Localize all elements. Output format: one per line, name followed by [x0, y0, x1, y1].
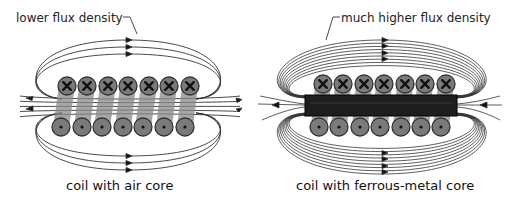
wire-into-page-icon — [396, 75, 414, 93]
wire-into-page-icon — [437, 75, 455, 93]
wire-into-page-icon — [334, 75, 352, 93]
wire-out-of-page-icon — [176, 118, 194, 136]
annotation-leader-line — [326, 17, 340, 40]
air-core-coil-panel: lower flux density coil with air core — [16, 11, 242, 193]
wire-out-of-page-icon — [114, 118, 132, 136]
wire-out-of-page-icon — [93, 118, 111, 136]
wire-into-page-icon — [58, 77, 76, 95]
annotation-much-higher-flux-density: much higher flux density — [341, 11, 491, 25]
annotation-leader-line — [123, 17, 137, 34]
ferrous-metal-core — [305, 95, 457, 116]
wire-out-of-page-icon — [412, 118, 430, 136]
wire-out-of-page-icon — [52, 118, 70, 136]
wire-out-of-page-icon — [392, 118, 410, 136]
wire-into-page-icon — [416, 75, 434, 93]
wire-into-page-icon — [314, 75, 332, 93]
wire-into-page-icon — [140, 77, 158, 95]
ferrous-core-coil-panel: much higher flux density coil with ferro… — [258, 11, 502, 193]
wire-out-of-page-icon — [310, 118, 328, 136]
wire-out-of-page-icon — [330, 118, 348, 136]
wire-into-page-icon — [119, 77, 137, 95]
wire-out-of-page-icon — [73, 118, 91, 136]
wire-into-page-icon — [99, 77, 117, 95]
wire-into-page-icon — [355, 75, 373, 93]
wire-into-page-icon — [375, 75, 393, 93]
wire-out-of-page-icon — [432, 118, 450, 136]
wire-out-of-page-icon — [134, 118, 152, 136]
electromagnet-diagram: lower flux density coil with air core mu… — [0, 0, 505, 200]
wire-out-of-page-icon — [351, 118, 369, 136]
wire-into-page-icon — [78, 77, 96, 95]
wire-out-of-page-icon — [371, 118, 389, 136]
caption-air-core: coil with air core — [66, 178, 173, 193]
wire-into-page-icon — [181, 77, 199, 95]
annotation-lower-flux-density: lower flux density — [16, 11, 123, 25]
coil-winding — [305, 75, 457, 136]
wire-into-page-icon — [160, 77, 178, 95]
wire-out-of-page-icon — [155, 118, 173, 136]
caption-ferrous-core: coil with ferrous-metal core — [296, 178, 474, 193]
